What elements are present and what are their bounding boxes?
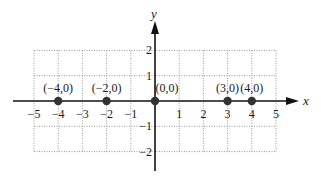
- x-tick-label: 3: [225, 107, 231, 121]
- y-tick-label: 1: [146, 69, 152, 83]
- data-point-marker: [151, 97, 159, 105]
- data-point-label: (−2,0): [92, 81, 122, 95]
- y-axis-arrow-icon: [151, 21, 159, 34]
- y-tick-label: −2: [139, 145, 152, 159]
- x-tick-label: −4: [52, 107, 65, 121]
- y-tick-label: 2: [146, 43, 152, 57]
- data-point-label: (−4,0): [43, 81, 73, 95]
- x-tick-label: −5: [28, 107, 41, 121]
- data-point-marker: [102, 97, 110, 105]
- coordinate-plane: −5−4−3−2−11234521−1−2 (−4,0)(−2,0)(0,0)(…: [0, 0, 321, 184]
- data-point-marker: [54, 97, 62, 105]
- axes: [13, 21, 299, 171]
- data-point-label: (0,0): [156, 81, 179, 95]
- x-tick-label: 2: [200, 107, 206, 121]
- x-tick-label: −3: [76, 107, 89, 121]
- x-tick-label: 4: [249, 107, 255, 121]
- data-point-marker: [248, 97, 256, 105]
- y-tick-label: −1: [139, 119, 152, 133]
- x-tick-label: −2: [100, 107, 113, 121]
- x-axis-arrow-icon: [286, 97, 299, 105]
- x-tick-label: 5: [273, 107, 279, 121]
- x-tick-label: 1: [176, 107, 182, 121]
- y-axis-label: y: [149, 6, 157, 21]
- data-point-label: (3,0): [216, 81, 239, 95]
- data-point-label: (4,0): [240, 81, 263, 95]
- x-axis-label: x: [302, 93, 309, 108]
- x-tick-label: −1: [124, 107, 137, 121]
- plot-svg: −5−4−3−2−11234521−1−2 (−4,0)(−2,0)(0,0)(…: [0, 0, 321, 184]
- data-point-marker: [223, 97, 231, 105]
